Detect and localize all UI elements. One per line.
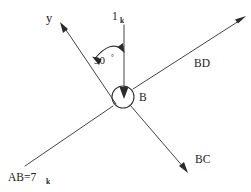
force-diagram-canvas: y 1 k 30 ° B BD BC AB=7 k xyxy=(0,0,251,192)
member-label-ab: AB=7 xyxy=(8,171,36,183)
member-label-ab-subscript: k xyxy=(46,177,51,186)
member-label-bd: BD xyxy=(194,57,210,69)
member-segment-bc xyxy=(130,105,185,169)
arrow-head-arc-right xyxy=(118,43,125,53)
joint-label-b: B xyxy=(139,91,147,103)
member-line-ab-bd xyxy=(25,16,246,166)
angle-label-degree-symbol: ° xyxy=(111,53,114,61)
arrow-head-1k xyxy=(120,87,129,99)
force-label-1k-subscript: k xyxy=(120,16,125,25)
member-segment-ab xyxy=(25,106,113,166)
force-line-1k xyxy=(120,25,129,99)
axis-line-y xyxy=(60,22,116,104)
member-line-bc xyxy=(130,105,188,173)
axis-segment-y xyxy=(64,27,116,104)
force-diagram-svg: y 1 k 30 ° B BD BC AB=7 k xyxy=(0,0,251,192)
member-segment-bd xyxy=(133,19,242,89)
member-label-bc: BC xyxy=(195,153,211,165)
angle-label-value: 30 xyxy=(94,54,106,66)
force-label-1k-value: 1 xyxy=(112,10,118,22)
axis-label-y: y xyxy=(46,11,53,25)
